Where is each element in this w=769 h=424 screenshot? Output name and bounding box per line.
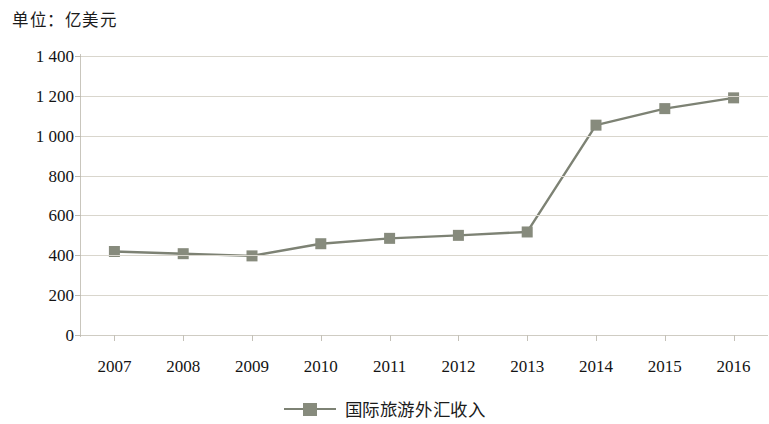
series-line-chart	[80, 56, 768, 335]
y-axis-tick	[75, 295, 81, 296]
y-axis-tick-label: 1 000	[2, 128, 74, 145]
data-point-marker	[315, 238, 326, 249]
x-axis-tick-label: 2012	[441, 358, 475, 375]
legend-series-label: 国际旅游外汇收入	[345, 396, 486, 421]
x-axis-tick	[114, 335, 115, 341]
gridline	[80, 56, 768, 57]
y-axis-tick	[75, 335, 81, 336]
data-point-marker	[178, 248, 189, 259]
gridline	[80, 136, 768, 137]
chart-figure: 单位：亿美元 02004006008001 0001 2001 400 2007…	[0, 0, 769, 424]
x-axis-tick-label: 2014	[579, 358, 613, 375]
y-axis-tick	[75, 255, 81, 256]
data-point-marker	[591, 120, 602, 131]
data-point-marker	[384, 233, 395, 244]
x-axis-tick	[527, 335, 528, 341]
x-axis-tick-label: 2007	[97, 358, 131, 375]
x-axis-tick-label: 2010	[304, 358, 338, 375]
x-axis-tick	[321, 335, 322, 341]
legend-marker-icon	[284, 402, 336, 416]
y-axis-tick	[75, 56, 81, 57]
y-axis-tick-label: 0	[2, 327, 74, 344]
x-axis-tick-label: 2009	[235, 358, 269, 375]
x-axis-tick	[252, 335, 253, 341]
y-axis-tick	[75, 215, 81, 216]
x-axis-tick	[390, 335, 391, 341]
y-axis-tick-label: 200	[2, 287, 74, 304]
gridline	[80, 96, 768, 97]
x-axis-tick-label: 2015	[648, 358, 682, 375]
gridline	[80, 295, 768, 296]
data-point-marker	[659, 103, 670, 114]
y-axis-tick	[75, 176, 81, 177]
x-axis-tick-label: 2016	[717, 358, 751, 375]
x-axis-tick-label: 2008	[166, 358, 200, 375]
x-axis-tick	[596, 335, 597, 341]
y-axis-tick-label: 800	[2, 168, 74, 185]
data-point-marker	[728, 92, 739, 103]
y-axis-tick	[75, 136, 81, 137]
x-axis-tick	[183, 335, 184, 341]
y-axis-tick-label: 600	[2, 207, 74, 224]
y-axis-labels: 02004006008001 0001 2001 400	[0, 0, 74, 424]
y-axis-tick-label: 1 200	[2, 88, 74, 105]
data-point-marker	[522, 226, 533, 237]
gridline	[80, 215, 768, 216]
x-axis-tick	[734, 335, 735, 341]
data-point-marker	[453, 230, 464, 241]
plot-area	[80, 56, 768, 335]
y-axis-tick-label: 1 400	[2, 48, 74, 65]
x-axis-labels: 2007200820092010201120122013201420152016	[80, 358, 768, 384]
x-axis-tick-label: 2011	[373, 358, 406, 375]
x-axis-tick	[665, 335, 666, 341]
x-axis-tick	[458, 335, 459, 341]
gridline	[80, 176, 768, 177]
series-line	[114, 98, 733, 256]
y-axis-tick	[75, 96, 81, 97]
x-axis-tick-label: 2013	[510, 358, 544, 375]
gridline	[80, 255, 768, 256]
chart-legend: 国际旅游外汇收入	[0, 396, 769, 421]
y-axis-tick-label: 400	[2, 247, 74, 264]
